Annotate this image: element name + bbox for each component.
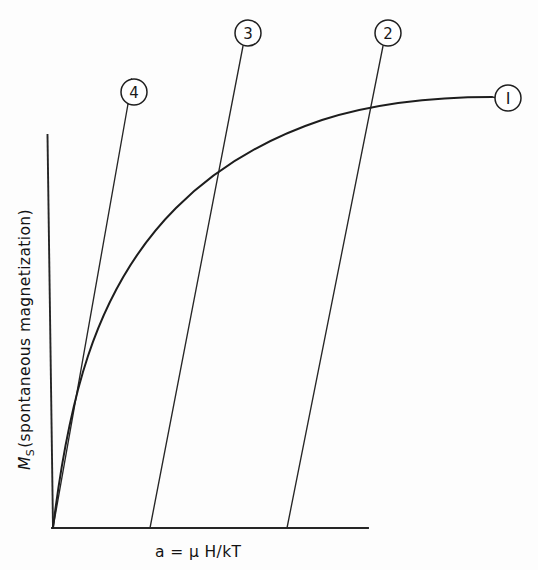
marker-2-label: 2: [383, 25, 393, 43]
y-axis-label-main: M: [16, 456, 34, 470]
solution-line-2: [287, 46, 383, 528]
callout-leaders-group: [128, 79, 495, 104]
magnetization-figure: I 2 3 4 MS(spontaneous magnetization): [0, 0, 538, 570]
y-axis-label-group: MS(spontaneous magnetization): [16, 209, 37, 470]
x-axis-label: a = μ H/kT: [155, 543, 242, 561]
marker-1: I: [495, 85, 521, 111]
y-axis-label-sub: S: [24, 449, 37, 456]
marker-3: 3: [235, 20, 261, 46]
marker-1-label: I: [506, 89, 511, 108]
marker-2: 2: [375, 20, 401, 46]
solution-line-4: [53, 104, 128, 528]
figure-container: I 2 3 4 MS(spontaneous magnetization): [0, 0, 538, 570]
marker-4-label: 4: [129, 84, 139, 102]
solution-line-3: [150, 46, 243, 528]
y-axis-label-rest: (spontaneous magnetization): [16, 209, 34, 448]
axes-group: [48, 135, 369, 528]
x-axis-label-group: a = μ H/kT: [155, 543, 242, 561]
marker-4: 4: [121, 79, 147, 105]
brillouin-curve-group: [53, 97, 492, 528]
solution-lines-group: [53, 46, 383, 528]
y-axis-label: MS(spontaneous magnetization): [16, 209, 37, 470]
y-axis: [48, 135, 54, 528]
marker-3-label: 3: [243, 25, 253, 43]
brillouin-curve: [53, 97, 492, 528]
